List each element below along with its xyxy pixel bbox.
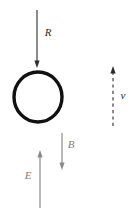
vector-label-v: v	[121, 89, 126, 101]
figure-canvas: RvBE	[0, 0, 135, 219]
vector-label-E: E	[24, 169, 32, 181]
figure-background	[0, 0, 135, 219]
diagram-svg: RvBE	[0, 0, 135, 219]
vector-label-R: R	[44, 26, 52, 38]
vector-label-B: B	[68, 138, 75, 150]
